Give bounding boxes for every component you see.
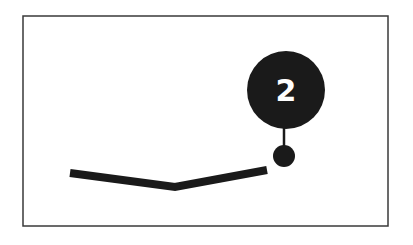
- frame-border: [23, 16, 388, 226]
- bent-line: [70, 170, 267, 187]
- marker-dot: [273, 145, 295, 167]
- callout-number: 2: [276, 73, 297, 108]
- diagram-canvas: 2: [0, 0, 413, 245]
